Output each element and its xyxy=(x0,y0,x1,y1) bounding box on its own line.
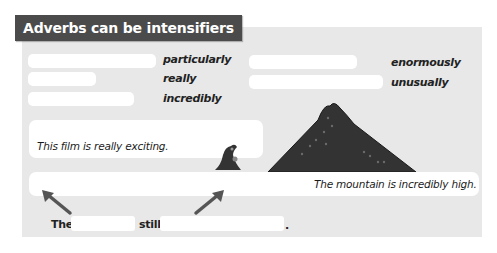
section-title: Adverbs can be intensifiers xyxy=(15,15,242,41)
fill-blank-2[interactable] xyxy=(160,216,284,231)
fill-blank-1[interactable] xyxy=(71,216,135,231)
answer-box-unusually[interactable] xyxy=(249,75,383,89)
word-really: really xyxy=(163,72,196,85)
word-incredibly: incredibly xyxy=(163,92,221,105)
fill-word-the: The xyxy=(51,218,73,231)
mountain-sentence: The mountain is incredibly high. xyxy=(314,178,477,190)
word-enormously: enormously xyxy=(391,56,461,69)
word-particularly: particularly xyxy=(163,53,231,66)
arrow-up-left-icon xyxy=(40,190,74,216)
answer-box-really[interactable] xyxy=(28,72,96,86)
fill-word-still: still xyxy=(139,218,161,231)
word-unusually: unusually xyxy=(391,76,448,89)
answer-box-particularly[interactable] xyxy=(28,54,156,68)
climber-icon xyxy=(213,141,243,171)
answer-box-enormously[interactable] xyxy=(249,55,357,69)
mountain-icon xyxy=(268,100,416,172)
fill-period: . xyxy=(285,219,289,232)
film-sentence: This film is really exciting. xyxy=(37,140,168,152)
arrow-up-right-icon xyxy=(192,190,226,216)
answer-box-incredibly[interactable] xyxy=(28,92,134,106)
